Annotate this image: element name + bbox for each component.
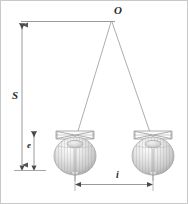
label-suspension-height-S: S (12, 90, 18, 101)
diagram-canvas (1, 1, 188, 204)
suspension-wires (75, 22, 153, 141)
pendulum-diagram: O S e i (0, 0, 188, 204)
dimension-e (31, 132, 37, 172)
left-wire (75, 22, 111, 141)
label-separation-i: i (116, 170, 119, 180)
label-apex-O: O (114, 5, 122, 16)
right-wire (112, 22, 153, 141)
dimension-i (75, 173, 153, 191)
dimension-S (19, 24, 25, 172)
label-bob-offset-e: e (27, 141, 31, 150)
